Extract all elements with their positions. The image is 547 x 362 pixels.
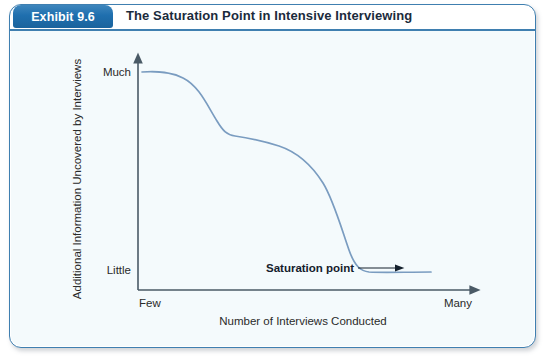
- x-tick-many: Many: [444, 297, 472, 309]
- x-axis-label: Number of Interviews Conducted: [219, 315, 386, 327]
- chart-panel: Much Little Few Many Number of Interview…: [11, 31, 534, 346]
- exhibit-number-badge: Exhibit 9.6: [13, 5, 113, 28]
- exhibit-title: The Saturation Point in Intensive Interv…: [126, 8, 412, 23]
- x-tick-few: Few: [139, 297, 161, 309]
- y-tick-much: Much: [103, 66, 131, 78]
- y-axis-label: Additional Information Uncovered by Inte…: [71, 59, 83, 300]
- saturation-curve: [142, 72, 431, 273]
- exhibit-figure: Exhibit 9.6 The Saturation Point in Inte…: [0, 0, 547, 362]
- y-tick-little: Little: [107, 264, 131, 276]
- saturation-point-annotation: Saturation point: [266, 262, 354, 274]
- saturation-line-chart: Much Little Few Many Number of Interview…: [11, 31, 534, 346]
